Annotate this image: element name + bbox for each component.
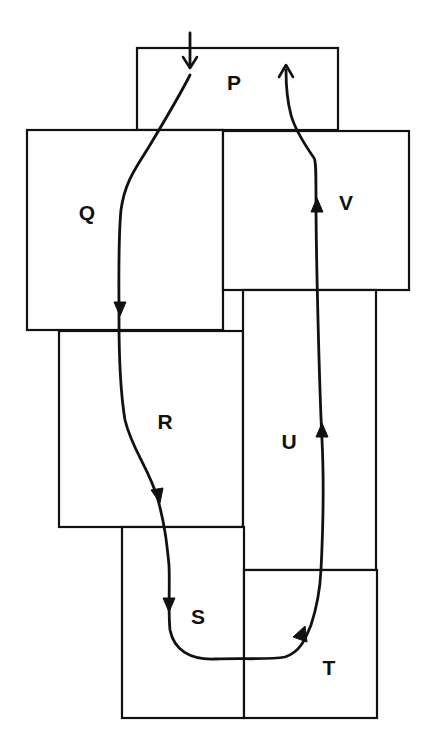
room-u: U <box>243 290 376 570</box>
room-q: Q <box>27 130 223 330</box>
room-r-label: R <box>157 410 172 433</box>
room-s-label: S <box>191 605 205 628</box>
room-u-outline <box>243 290 376 570</box>
room-r: R <box>59 331 243 527</box>
room-v-label: V <box>339 191 353 214</box>
room-u-label: U <box>281 430 296 453</box>
room-q-outline <box>27 130 223 330</box>
room-p-label: P <box>227 71 241 94</box>
room-s-outline <box>122 527 244 718</box>
room-q-label: Q <box>79 201 95 224</box>
room-t-outline <box>244 570 377 718</box>
room-r-outline <box>59 331 243 527</box>
room-t-label: T <box>323 656 336 679</box>
room-t: T <box>244 570 377 718</box>
room-s: S <box>122 527 244 718</box>
room-route-diagram: P Q V R U S T <box>0 0 432 741</box>
